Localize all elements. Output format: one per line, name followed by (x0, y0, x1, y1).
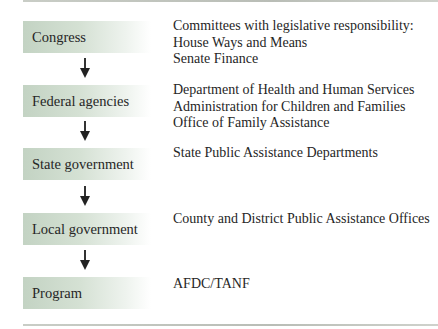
level-label: State government (32, 156, 134, 173)
level-label: Program (32, 285, 82, 302)
level-label: Federal agencies (32, 93, 129, 110)
top-rule (23, 0, 438, 2)
arrow-down-icon (80, 186, 90, 206)
detail-line: County and District Public Assistance Of… (173, 211, 435, 228)
detail-line: Committees with legislative responsibili… (173, 18, 435, 35)
detail-line: State Public Assistance Departments (173, 145, 435, 162)
detail-line: Senate Finance (173, 51, 435, 68)
arrow-down-icon (80, 121, 90, 141)
detail-line: Administration for Children and Families (173, 99, 435, 116)
level-label: Local government (32, 221, 138, 238)
level-details-state-government: State Public Assistance Departments (173, 145, 435, 162)
level-box-local-government: Local government (23, 213, 151, 245)
level-label: Congress (32, 29, 86, 46)
arrow-down-icon (80, 58, 90, 78)
level-box-congress: Congress (23, 21, 151, 53)
detail-line: AFDC/TANF (173, 276, 435, 293)
level-box-federal-agencies: Federal agencies (23, 85, 151, 117)
level-box-state-government: State government (23, 148, 151, 180)
level-details-federal-agencies: Department of Health and Human Services … (173, 82, 435, 132)
detail-line: Department of Health and Human Services (173, 82, 435, 99)
level-box-program: Program (23, 277, 151, 309)
level-details-local-government: County and District Public Assistance Of… (173, 211, 435, 228)
level-details-congress: Committees with legislative responsibili… (173, 18, 435, 68)
level-details-program: AFDC/TANF (173, 276, 435, 293)
arrow-down-icon (80, 250, 90, 270)
bottom-rule (23, 324, 438, 326)
detail-line: Office of Family Assistance (173, 115, 435, 132)
detail-line: House Ways and Means (173, 35, 435, 52)
